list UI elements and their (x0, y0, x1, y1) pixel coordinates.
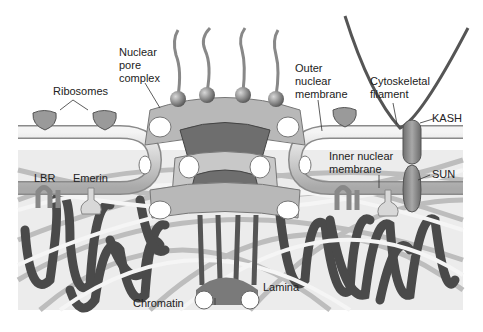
label-chromatin: Chromatin (133, 297, 184, 310)
label-inner-membrane-2: membrane (329, 163, 382, 176)
kash-protein (403, 120, 421, 164)
label-inner-membrane-1: Inner nuclear (329, 150, 393, 163)
label-nuclear-pore-complex-3: complex (119, 72, 160, 85)
label-cytoskeletal-2: filament (370, 88, 409, 101)
label-lbr: LBR (34, 172, 55, 185)
label-emerin: Emerin (73, 172, 108, 185)
label-nuclear-pore-complex-1: Nuclear (119, 46, 157, 59)
cytoplasmic-filaments (170, 28, 284, 107)
label-outer-membrane-1: Outer (295, 62, 323, 75)
sun-protein (403, 165, 421, 212)
label-nuclear-pore-complex-2: pore (119, 59, 141, 72)
label-kash: KASH (432, 112, 462, 125)
label-cytoskeletal-1: Cytoskeletal (370, 75, 430, 88)
nuclear-envelope-diagram: Ribosomes Nuclear pore complex Outer nuc… (0, 0, 483, 332)
label-lamina: Lamina (263, 281, 299, 294)
label-ribosomes: Ribosomes (53, 85, 108, 98)
label-outer-membrane-3: membrane (295, 88, 348, 101)
label-outer-membrane-2: nuclear (295, 75, 331, 88)
diagram-illustration (0, 0, 483, 332)
label-sun: SUN (432, 168, 455, 181)
